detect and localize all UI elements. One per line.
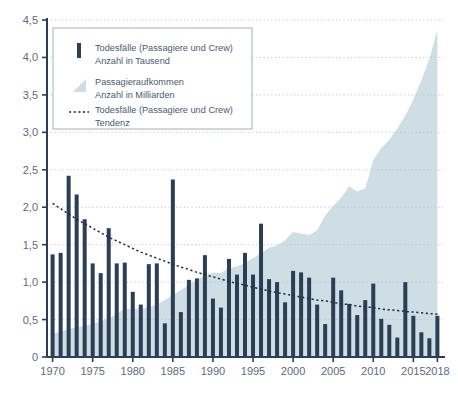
- y-axis-ticks: 00,51,01,52,02,53,03,54,04,5: [23, 14, 47, 363]
- bar-2013: [395, 338, 399, 357]
- y-tick-label-2,5: 2,5: [23, 164, 38, 176]
- bar-1975: [91, 263, 95, 357]
- y-tick-label-1,5: 1,5: [23, 239, 38, 251]
- y-tick-label-0: 0: [32, 351, 38, 363]
- bar-1994: [243, 253, 247, 357]
- bar-1996: [259, 224, 263, 357]
- aviation-fatalities-chart: 00,51,01,52,02,53,03,54,04,5197019751980…: [0, 0, 458, 398]
- bar-1979: [123, 263, 127, 357]
- bar-1988: [195, 278, 199, 357]
- bar-1993: [235, 275, 239, 357]
- bar-1977: [107, 228, 111, 357]
- bar-1982: [147, 264, 151, 357]
- x-tick-label-2005: 2005: [321, 365, 345, 377]
- bar-2007: [347, 304, 351, 357]
- bar-2000: [291, 271, 295, 357]
- legend: Todesfälle (Passagiere und Crew)Anzahl i…: [53, 28, 252, 129]
- bar-1970: [51, 254, 55, 357]
- bar-1991: [219, 308, 223, 357]
- bar-1972: [67, 176, 71, 357]
- y-tick-label-0,5: 0,5: [23, 314, 38, 326]
- bar-2009: [363, 300, 367, 357]
- bar-1981: [139, 305, 143, 357]
- y-tick-label-2,0: 2,0: [23, 201, 38, 213]
- x-tick-label-2010: 2010: [361, 365, 385, 377]
- legend-item-2-line2: Anzahl in Milliarden: [95, 90, 175, 100]
- bar-2010: [371, 284, 375, 357]
- y-tick-label-3,0: 3,0: [23, 126, 38, 138]
- legend-item-3-line1: Todesfälle (Passagiere und Crew): [95, 105, 233, 115]
- legend-item-1-line2: Anzahl in Tausend: [95, 56, 170, 66]
- chart-container: 00,51,01,52,02,53,03,54,04,5197019751980…: [0, 0, 458, 398]
- bar-1983: [155, 263, 159, 357]
- bar-2008: [355, 315, 359, 357]
- y-tick-label-4,5: 4,5: [23, 14, 38, 26]
- x-tick-label-2015: 2015: [401, 365, 425, 377]
- x-tick-label-1990: 1990: [201, 365, 225, 377]
- bar-1971: [59, 253, 63, 357]
- bar-1973: [75, 194, 79, 357]
- x-tick-label-1975: 1975: [80, 365, 104, 377]
- bar-1989: [203, 255, 207, 357]
- legend-item-3-line2: Tendenz: [95, 118, 130, 128]
- bar-1986: [179, 312, 183, 357]
- bar-2003: [315, 305, 319, 357]
- x-tick-label-2000: 2000: [281, 365, 305, 377]
- x-tick-label-1985: 1985: [161, 365, 185, 377]
- legend-item-1-line1: Todesfälle (Passagiere und Crew): [95, 43, 233, 53]
- y-tick-label-3,5: 3,5: [23, 89, 38, 101]
- x-tick-label-1970: 1970: [40, 365, 64, 377]
- bar-1985: [171, 180, 175, 357]
- bar-1974: [83, 219, 87, 357]
- legend-item-2-line1: Passagieraufkommen: [95, 77, 184, 87]
- bar-1976: [99, 273, 103, 357]
- bar-1992: [227, 259, 231, 357]
- bar-2016: [419, 332, 423, 357]
- bar-2015: [411, 316, 415, 357]
- bar-2014: [403, 282, 407, 357]
- bar-2001: [299, 272, 303, 357]
- x-tick-label-1980: 1980: [121, 365, 145, 377]
- bar-2004: [323, 324, 327, 357]
- x-tick-label-2018: 2018: [425, 365, 449, 377]
- bar-1980: [131, 292, 135, 357]
- y-tick-label-4,0: 4,0: [23, 51, 38, 63]
- bar-2002: [307, 278, 311, 357]
- bar-1999: [283, 302, 287, 357]
- bar-2011: [379, 319, 383, 357]
- y-tick-label-1,0: 1,0: [23, 276, 38, 288]
- bar-1990: [211, 299, 215, 357]
- bar-1987: [187, 280, 191, 357]
- bar-2006: [339, 290, 343, 357]
- bar-2017: [427, 338, 431, 357]
- legend-bar-swatch-icon: [77, 43, 81, 58]
- bar-1984: [163, 323, 167, 357]
- bar-2005: [331, 278, 335, 357]
- x-tick-label-1995: 1995: [241, 365, 265, 377]
- bar-2018: [435, 316, 439, 357]
- x-axis-ticks: 1970197519801985199019952000200520102015…: [40, 357, 449, 377]
- bar-1978: [115, 263, 119, 357]
- bar-2012: [387, 325, 391, 357]
